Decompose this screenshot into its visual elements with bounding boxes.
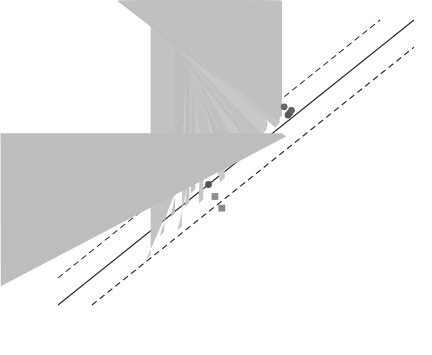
data-point [218,205,225,212]
data-point [205,181,212,188]
scatter-plot [0,0,432,355]
data-point [288,107,295,114]
figure-container [0,0,432,355]
data-point [281,103,288,110]
data-point [212,193,219,200]
